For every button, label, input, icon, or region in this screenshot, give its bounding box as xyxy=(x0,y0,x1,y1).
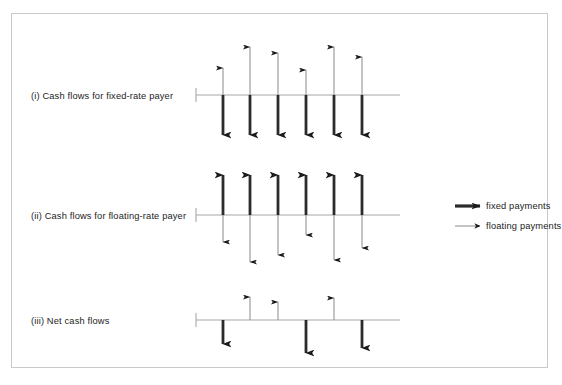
figure-root: (i) Cash flows for fixed-rate payer (ii)… xyxy=(0,0,562,385)
panel-1-label: (i) Cash flows for fixed-rate payer xyxy=(31,91,173,101)
legend-item-floating-label: floating payments xyxy=(486,221,561,231)
legend-item-fixed-label: fixed payments xyxy=(486,201,551,211)
panel-3-label: (iii) Net cash flows xyxy=(31,316,109,326)
figure-border xyxy=(11,13,548,368)
panel-2-label: (ii) Cash flows for floating-rate payer xyxy=(31,211,186,221)
